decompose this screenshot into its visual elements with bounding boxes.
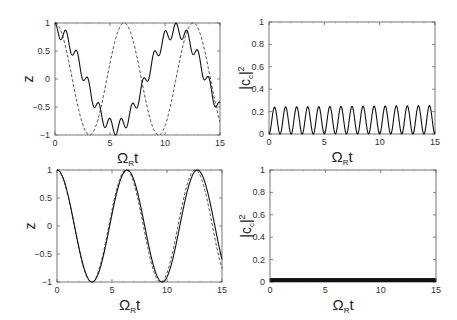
x-tick-label: 10 — [376, 285, 386, 295]
y-tick-label: 0.5 — [39, 193, 52, 203]
series-solid — [55, 23, 220, 135]
axes-frame — [270, 170, 436, 282]
x-tick-label: 5 — [107, 138, 112, 148]
y-tick-label: 1 — [260, 165, 265, 175]
y-tick-label: 0 — [45, 74, 50, 84]
x-tick-label: 0 — [266, 137, 271, 147]
x-tick-label: 15 — [215, 138, 225, 148]
x-tick-label: 10 — [162, 285, 172, 295]
series-dashed — [55, 23, 220, 135]
y-tick-label: 1 — [259, 17, 264, 27]
plot-bottom-right-cc: 05101500.20.40.60.81ΩRt|cc|2 — [237, 165, 441, 315]
x-tick-label: 5 — [322, 137, 327, 147]
axes-frame — [55, 23, 220, 135]
x-tick-label: 0 — [267, 285, 272, 295]
y-tick-label: 0.6 — [251, 62, 264, 72]
y-axis-label: z — [22, 223, 38, 230]
x-axis-label: ΩRt — [119, 296, 141, 315]
dense-oscillation-band — [271, 278, 436, 282]
series-solid — [269, 106, 435, 134]
x-tick-label: 5 — [109, 285, 114, 295]
y-tick-label: 1 — [47, 165, 52, 175]
x-axis-label: ΩRt — [332, 296, 354, 315]
figure: 051015−1−0.500.51ΩRtz 05101500.20.40.60.… — [0, 0, 457, 320]
y-tick-label: 0 — [260, 277, 265, 287]
x-tick-label: 5 — [323, 285, 328, 295]
y-tick-label: 0.2 — [251, 107, 264, 117]
x-tick-label: 0 — [54, 285, 59, 295]
y-tick-label: 0.6 — [252, 210, 265, 220]
y-tick-label: 0.8 — [252, 187, 265, 197]
x-axis-label: ΩRt — [117, 149, 139, 168]
plot-top-right-cc: 05101500.20.40.60.81ΩRt|cc|2 — [236, 17, 440, 167]
y-axis-label: z — [20, 76, 36, 83]
x-axis-label: ΩRt — [331, 148, 353, 167]
y-tick-label: 1 — [45, 18, 50, 28]
x-tick-label: 15 — [430, 137, 440, 147]
y-tick-label: 0.5 — [37, 46, 50, 56]
y-tick-label: −0.5 — [34, 249, 52, 259]
series-solid — [57, 170, 222, 282]
y-tick-label: 0 — [259, 129, 264, 139]
y-tick-label: 0.4 — [251, 84, 264, 94]
y-tick-label: −0.5 — [32, 102, 50, 112]
y-tick-label: 0.2 — [252, 255, 265, 265]
y-tick-label: −1 — [42, 277, 52, 287]
x-tick-label: 10 — [375, 137, 385, 147]
y-tick-label: −1 — [40, 130, 50, 140]
y-tick-label: 0.4 — [252, 232, 265, 242]
x-tick-label: 15 — [217, 285, 227, 295]
axes-frame — [57, 170, 222, 282]
series-dashed — [57, 170, 222, 282]
y-tick-label: 0.8 — [251, 39, 264, 49]
plot-bottom-left-z: 051015−1−0.500.51ΩRtz — [22, 165, 227, 315]
x-tick-label: 15 — [431, 285, 441, 295]
y-tick-label: 0 — [47, 221, 52, 231]
x-tick-label: 10 — [160, 138, 170, 148]
x-tick-label: 0 — [52, 138, 57, 148]
plot-top-left-z: 051015−1−0.500.51ΩRtz — [20, 18, 225, 168]
